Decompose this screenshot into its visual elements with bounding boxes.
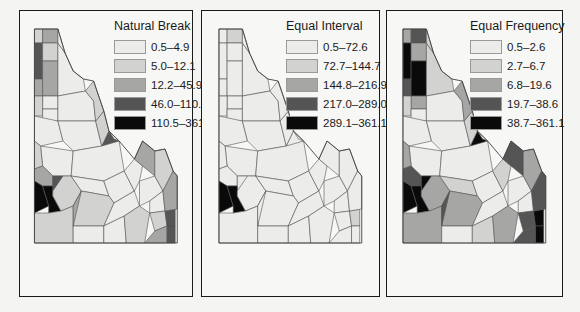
legend-swatch	[470, 78, 502, 92]
legend-title: Equal Interval	[286, 19, 387, 33]
legend-item: 12.2–45.9	[114, 75, 214, 94]
county-polygon	[43, 29, 58, 43]
county-polygon	[411, 29, 426, 43]
legend-item: 6.8–19.6	[470, 75, 565, 94]
legend-label: 46.0–110.4	[151, 98, 208, 110]
legend-item: 0.5–72.6	[286, 37, 387, 56]
county-polygon	[58, 121, 102, 151]
county-polygon	[227, 96, 242, 109]
legend-swatch	[114, 78, 146, 92]
county-polygon	[34, 79, 42, 96]
county-polygon	[258, 226, 289, 243]
legend-label: 72.7–144.7	[323, 60, 381, 72]
county-polygon	[58, 43, 86, 96]
legend-item: 2.7–6.7	[470, 56, 565, 75]
county-polygon	[426, 121, 470, 151]
map-legend: Natural Break 0.5–4.9 5.0–12.1 12.2–45.9…	[114, 19, 214, 132]
legend-swatch	[286, 59, 318, 73]
legend-swatch	[114, 116, 146, 130]
legend-swatch	[470, 59, 502, 73]
county-polygon	[350, 209, 360, 226]
equal-frequency-map-panel: Equal Frequency 0.5–2.6 2.7–6.7 6.8–19.6…	[386, 10, 563, 297]
county-polygon	[403, 79, 411, 96]
map-legend: Equal Frequency 0.5–2.6 2.7–6.7 6.8–19.6…	[470, 19, 565, 132]
county-polygon	[167, 226, 175, 243]
county-polygon	[219, 29, 227, 43]
legend-label: 144.8–216.9	[323, 79, 387, 91]
legend-title: Natural Break	[114, 19, 214, 33]
county-polygon	[442, 226, 473, 243]
county-polygon	[43, 61, 58, 96]
legend-item: 5.0–12.1	[114, 56, 214, 75]
legend-item: 289.1–361.1	[286, 113, 387, 132]
county-polygon	[227, 43, 242, 61]
county-polygon	[165, 209, 175, 226]
county-polygon	[34, 43, 42, 79]
legend-swatch	[114, 40, 146, 54]
legend-title: Equal Frequency	[470, 19, 565, 33]
legend-item: 217.0–289.0	[286, 94, 387, 113]
county-polygon	[352, 226, 360, 243]
legend-swatch	[286, 78, 318, 92]
county-polygon	[534, 209, 544, 226]
county-polygon	[411, 43, 426, 61]
county-polygon	[34, 96, 42, 116]
county-polygon	[227, 61, 242, 96]
county-polygon	[242, 43, 270, 96]
county-polygon	[34, 29, 42, 43]
legend-swatch	[114, 97, 146, 111]
legend-swatch	[286, 97, 318, 111]
legend-swatch	[114, 59, 146, 73]
legend-label: 0.5–4.9	[151, 41, 189, 53]
natural-break-map-panel: Natural Break 0.5–4.9 5.0–12.1 12.2–45.9…	[19, 10, 193, 297]
legend-item: 46.0–110.4	[114, 94, 214, 113]
legend-label: 19.7–38.6	[507, 98, 558, 110]
legend-label: 2.7–6.7	[507, 60, 545, 72]
county-polygon	[219, 43, 227, 79]
county-polygon	[403, 96, 411, 116]
county-polygon	[403, 43, 411, 79]
county-polygon	[219, 79, 227, 96]
county-polygon	[73, 226, 104, 243]
legend-item: 144.8–216.9	[286, 75, 387, 94]
map-legend: Equal Interval 0.5–72.6 72.7–144.7 144.8…	[286, 19, 387, 132]
legend-label: 5.0–12.1	[151, 60, 196, 72]
legend-label: 0.5–2.6	[507, 41, 545, 53]
legend-swatch	[470, 116, 502, 130]
legend-label: 0.5–72.6	[323, 41, 368, 53]
legend-item: 19.7–38.6	[470, 94, 565, 113]
legend-swatch	[286, 40, 318, 54]
county-polygon	[536, 226, 544, 243]
legend-item: 0.5–2.6	[470, 37, 565, 56]
legend-label: 12.2–45.9	[151, 79, 202, 91]
legend-swatch	[470, 40, 502, 54]
county-polygon	[411, 61, 426, 96]
county-polygon	[403, 29, 411, 43]
legend-item: 38.7–361.1	[470, 113, 565, 132]
county-polygon	[411, 96, 426, 109]
legend-item: 72.7–144.7	[286, 56, 387, 75]
legend-label: 217.0–289.0	[323, 98, 387, 110]
legend-label: 6.8–19.6	[507, 79, 552, 91]
legend-label: 38.7–361.1	[507, 117, 565, 129]
county-polygon	[426, 43, 454, 96]
legend-label: 289.1–361.1	[323, 117, 387, 129]
county-polygon	[43, 43, 58, 61]
legend-swatch	[470, 97, 502, 111]
county-polygon	[227, 29, 242, 43]
equal-interval-map-panel: Equal Interval 0.5–72.6 72.7–144.7 144.8…	[201, 10, 380, 297]
legend-item: 0.5–4.9	[114, 37, 214, 56]
legend-swatch	[286, 116, 318, 130]
legend-item: 110.5–361.1	[114, 113, 214, 132]
county-polygon	[43, 96, 58, 109]
county-polygon	[242, 121, 286, 151]
county-polygon	[219, 96, 227, 116]
